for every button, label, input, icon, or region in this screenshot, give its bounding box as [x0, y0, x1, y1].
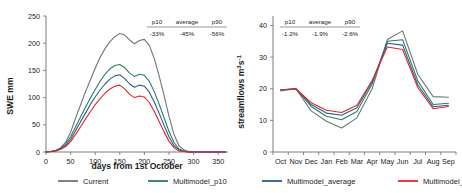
- series-line-current: [46, 33, 226, 152]
- x-tick-label-nov: Nov: [289, 157, 302, 166]
- annotation-value-p10: -33%: [150, 30, 165, 37]
- y-axis-title: streamflows m3s-1: [236, 55, 246, 129]
- annotation-header-p10: p10: [285, 18, 296, 25]
- x-tick-label-may: May: [381, 157, 395, 166]
- annotation-value-average: -1.9%: [312, 30, 329, 37]
- legend-svg: CurrentMultimodel_p10Multimodel_averageM…: [0, 170, 462, 193]
- y-tick-label: 150: [28, 66, 40, 75]
- x-tick-label-jan: Jan: [321, 157, 333, 166]
- annotation-value-p10: -1.2%: [282, 30, 299, 37]
- annotation-header-p10: p10: [152, 18, 163, 25]
- annotation-value-p90: -2.6%: [342, 30, 359, 37]
- y-tick-label: 40: [259, 21, 267, 30]
- x-tick-label-dec: Dec: [305, 157, 318, 166]
- y-tick-label: 200: [28, 39, 40, 48]
- swe-plot: 050100150200250 050100150200250300350 SW…: [0, 0, 236, 170]
- series-line-multimodel-average: [281, 43, 449, 115]
- annotation-header-p90: p90: [345, 18, 356, 25]
- legend-label-average: Multimodel_average: [287, 177, 355, 186]
- y-tick-label: 250: [28, 12, 40, 21]
- x-tick-label-jun: Jun: [397, 157, 409, 166]
- x-tick-label-aug: Aug: [427, 157, 440, 166]
- legend-items: CurrentMultimodel_p10Multimodel_averageM…: [58, 177, 462, 186]
- annotation-value-average: -45%: [180, 30, 195, 37]
- series-line-current: [281, 31, 449, 128]
- streamflows-plot: 010203040 OctNovDecJanFebMarAprMayJunJul…: [232, 0, 462, 170]
- legend-label-current: Current: [83, 177, 109, 186]
- chart-panel-streamflows: 010203040 OctNovDecJanFebMarAprMayJunJul…: [232, 0, 462, 170]
- x-tick-label: 50: [67, 157, 75, 166]
- legend-label-p10: Multimodel_p10: [173, 177, 227, 186]
- series-line-multimodel-p90: [46, 85, 226, 152]
- x-tick-label-oct: Oct: [275, 157, 286, 166]
- annotation-table-swe: p10 average p90 -33% -45% -56%: [147, 18, 227, 37]
- flow-axes: [273, 16, 456, 152]
- annotation-header-p90: p90: [212, 18, 223, 25]
- annotation-table-streamflows: p10 average p90 -1.2% -1.9% -2.6%: [280, 18, 360, 37]
- x-tick-label-apr: Apr: [367, 157, 379, 166]
- x-tick-label-sep: Sep: [442, 157, 455, 166]
- y-tick-label: 20: [259, 84, 267, 93]
- y-tick-label: 100: [28, 93, 40, 102]
- x-axis-ticks: OctNovDecJanFebMarAprMayJunJulAugSep: [273, 152, 456, 166]
- series-line-multimodel-average: [46, 75, 226, 152]
- series-group: [281, 31, 449, 128]
- x-tick-label-jul: Jul: [413, 157, 423, 166]
- series-group: [46, 33, 226, 152]
- figure-canvas: 050100150200250 050100150200250300350 SW…: [0, 0, 462, 193]
- x-tick-label: 0: [44, 157, 48, 166]
- y-axis-title: SWE mm: [5, 77, 15, 115]
- y-tick-label: 10: [259, 116, 267, 125]
- series-line-multimodel-p10: [281, 40, 449, 120]
- y-tick-label: 0: [36, 148, 40, 157]
- figure-legend: CurrentMultimodel_p10Multimodel_averageM…: [0, 170, 462, 193]
- y-tick-label: 50: [32, 120, 40, 129]
- y-axis-ticks: 010203040: [259, 21, 273, 157]
- y-axis-ticks: 050100150200250: [28, 12, 46, 157]
- x-tick-label-mar: Mar: [351, 157, 364, 166]
- y-tick-label: 0: [263, 148, 267, 157]
- chart-panel-swe: 050100150200250 050100150200250300350 SW…: [0, 0, 236, 170]
- annotation-header-average: average: [176, 18, 199, 25]
- x-tick-label: 350: [212, 157, 224, 166]
- x-tick-label-feb: Feb: [335, 157, 347, 166]
- annotation-header-average: average: [309, 18, 332, 25]
- x-tick-label: 300: [188, 157, 200, 166]
- annotation-value-p90: -56%: [210, 30, 225, 37]
- y-tick-label: 30: [259, 53, 267, 62]
- legend-label-p90: Multimodel_p90: [423, 177, 462, 186]
